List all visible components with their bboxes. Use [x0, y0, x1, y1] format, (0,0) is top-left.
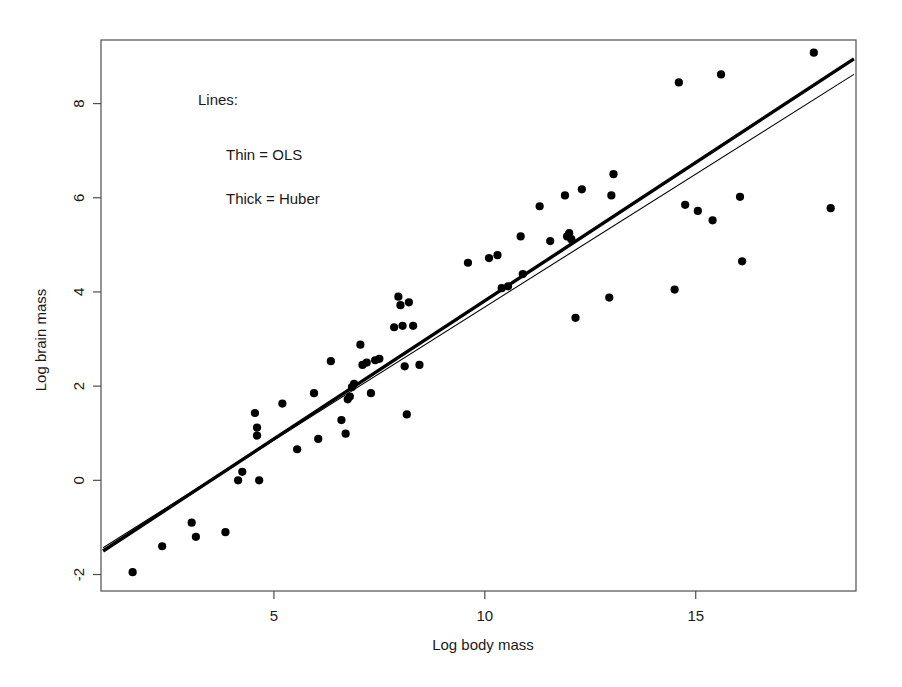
data-point [221, 528, 229, 536]
data-point [403, 410, 411, 418]
data-point [278, 399, 286, 407]
data-point [609, 170, 617, 178]
data-point [485, 254, 493, 262]
data-point [810, 49, 818, 57]
data-point [398, 322, 406, 330]
data-point [314, 435, 322, 443]
data-point [517, 232, 525, 240]
data-point [375, 355, 383, 363]
data-point [401, 362, 409, 370]
scatter-plot: 51015 -202468 Log body mass Log brain ma… [0, 0, 902, 687]
data-point [736, 193, 744, 201]
data-point [405, 298, 413, 306]
data-point [504, 282, 512, 290]
data-point [129, 568, 137, 576]
data-point [394, 293, 402, 301]
data-point [356, 341, 364, 349]
legend-thick-line-label: Thick = Huber [226, 190, 320, 207]
data-point [158, 542, 166, 550]
data-point [396, 301, 404, 309]
data-point [607, 191, 615, 199]
data-point [738, 257, 746, 265]
data-point [293, 445, 301, 453]
x-tick-label: 15 [687, 607, 704, 624]
data-point [493, 251, 501, 259]
y-tick-label: -2 [71, 568, 88, 581]
data-point [571, 314, 579, 322]
data-point [337, 416, 345, 424]
data-point [253, 431, 261, 439]
data-point [519, 270, 527, 278]
data-point [350, 380, 358, 388]
data-point [708, 216, 716, 224]
data-point [675, 78, 683, 86]
legend-thin-line-label: Thin = OLS [226, 146, 302, 163]
data-point [546, 237, 554, 245]
data-point [234, 476, 242, 484]
data-point [567, 235, 575, 243]
data-point [390, 323, 398, 331]
data-point [415, 361, 423, 369]
data-point [327, 357, 335, 365]
data-point [342, 430, 350, 438]
y-tick-label: 6 [71, 194, 88, 202]
y-tick-label: 8 [71, 99, 88, 107]
legend-heading: Lines: [198, 91, 238, 108]
figure-canvas: 51015 -202468 Log body mass Log brain ma… [0, 0, 902, 687]
y-tick-label: 0 [71, 476, 88, 484]
x-tick-label: 5 [270, 607, 278, 624]
data-point [192, 533, 200, 541]
data-point [310, 389, 318, 397]
data-point [605, 294, 613, 302]
data-point [827, 204, 835, 212]
data-point [367, 389, 375, 397]
data-point [578, 185, 586, 193]
data-point [253, 423, 261, 431]
y-axis-label: Log brain mass [32, 289, 49, 392]
plot-background [0, 0, 902, 687]
data-point [363, 358, 371, 366]
data-point [409, 322, 417, 330]
data-point [251, 409, 259, 417]
x-tick-label: 10 [476, 607, 493, 624]
data-point [536, 202, 544, 210]
x-axis-label: Log body mass [432, 636, 534, 653]
data-point [255, 476, 263, 484]
data-point [238, 468, 246, 476]
y-tick-label: 4 [71, 288, 88, 296]
data-point [694, 207, 702, 215]
data-point [717, 70, 725, 78]
data-point [188, 519, 196, 527]
y-tick-label: 2 [71, 382, 88, 390]
data-point [464, 259, 472, 267]
data-point [671, 285, 679, 293]
data-point [561, 191, 569, 199]
data-point [681, 201, 689, 209]
data-point [346, 392, 354, 400]
